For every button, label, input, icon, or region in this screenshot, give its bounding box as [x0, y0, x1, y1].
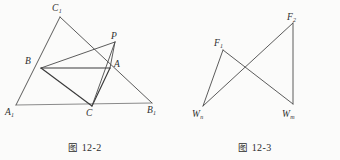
label-Wn: Wn: [192, 110, 203, 120]
label-A: A: [114, 60, 120, 70]
segment-P-C: [92, 42, 115, 106]
label-Wm: Wm: [282, 110, 295, 120]
label-B: B: [25, 57, 31, 67]
segment-A1-C1: [16, 17, 60, 105]
caption-number-right: 12-3: [252, 142, 272, 153]
label-C: C: [86, 109, 92, 119]
label-A1: A1: [5, 108, 14, 118]
segment-B-P: [41, 42, 115, 68]
label-C1: C1: [52, 4, 62, 14]
label-B1: B1: [147, 106, 156, 116]
figure-page: C1 P B A A1 C B1 图 12-2 F2 F1 Wn Wm 图 12…: [0, 0, 340, 160]
label-F2: F2: [287, 13, 296, 23]
caption-cjk-left: 图: [68, 142, 78, 153]
figure-12-3-panel: F2 F1 Wn Wm 图 12-3: [170, 0, 340, 160]
figure-12-2-caption: 图 12-2: [0, 140, 170, 154]
figure-12-2-panel: C1 P B A A1 C B1 图 12-2: [0, 0, 170, 160]
caption-cjk-right: 图: [238, 142, 248, 153]
segment-F1-Wm: [223, 50, 293, 104]
segment-B-C: [41, 68, 92, 106]
segment-A1-B1: [16, 103, 152, 105]
figure-12-3-caption: 图 12-3: [170, 140, 340, 154]
label-P: P: [111, 32, 117, 42]
segment-F1-Wn: [203, 50, 223, 106]
caption-number-left: 12-2: [82, 142, 102, 153]
segment-C-A: [92, 68, 110, 106]
label-F1: F1: [214, 39, 223, 49]
segment-C1-B1: [60, 17, 152, 103]
